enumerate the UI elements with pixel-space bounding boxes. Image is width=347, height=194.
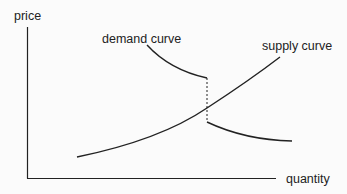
y-axis-label: price (14, 9, 41, 23)
supply-curve-label: supply curve (262, 39, 332, 53)
supply-demand-diagram: price quantity demand curve supply curve (0, 0, 347, 194)
supply-curve (77, 57, 280, 157)
x-axis-label: quantity (286, 172, 331, 186)
demand-curve-lower (207, 122, 292, 141)
demand-curve-label: demand curve (102, 32, 181, 46)
demand-curve-upper (147, 45, 207, 78)
